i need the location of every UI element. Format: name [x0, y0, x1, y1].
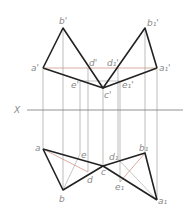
front-view-edges — [43, 28, 157, 88]
label-a: a — [35, 143, 41, 153]
projector-lines — [43, 28, 157, 200]
label-d1-prime: d₁' — [107, 58, 119, 68]
label-a1: a₁ — [158, 196, 168, 206]
label-c-prime: c' — [104, 90, 111, 100]
label-e-prime: e' — [71, 80, 79, 90]
label-e1: e₁ — [115, 182, 125, 192]
projection-diagram: X b' a' d' e' c' d₁' e₁' b₁' a₁' a e — [0, 0, 194, 220]
label-d-prime: d' — [89, 58, 97, 68]
label-b1-prime: b₁' — [147, 18, 159, 28]
label-e: e — [81, 150, 87, 160]
label-b: b — [59, 194, 65, 204]
label-b1: b₁ — [139, 143, 149, 153]
label-d1: d₁ — [109, 152, 119, 162]
label-a1-prime: a₁' — [159, 63, 171, 73]
label-b-prime: b' — [59, 16, 67, 26]
label-c: c — [101, 167, 106, 177]
top-view-edges — [43, 149, 157, 200]
x-axis-label: X — [13, 105, 21, 115]
label-e1-prime: e₁' — [122, 80, 134, 90]
label-d: d — [87, 175, 93, 185]
label-a-prime: a' — [31, 63, 39, 73]
